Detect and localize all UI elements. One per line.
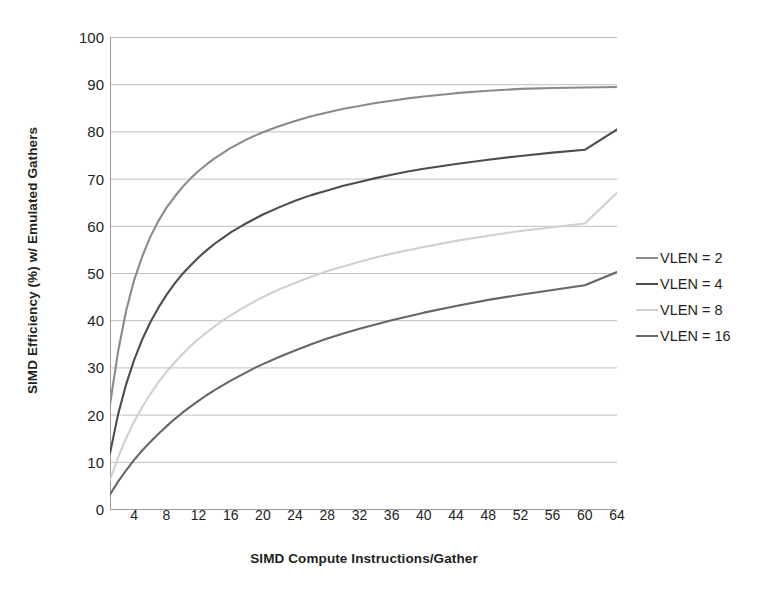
x-tick-label: 8 — [162, 508, 170, 522]
legend-label: VLEN = 8 — [660, 302, 722, 318]
legend-item-0[interactable]: VLEN = 2 — [636, 245, 766, 271]
series-line-3 — [110, 272, 617, 494]
chart-container: SIMD Efficiency (%) w/ Emulated Gathers … — [0, 0, 767, 600]
x-tick-label: 20 — [255, 508, 271, 522]
legend-swatch-icon — [636, 335, 658, 337]
x-tick-label: 16 — [223, 508, 239, 522]
series-line-0 — [110, 87, 617, 404]
x-tick-label: 60 — [577, 508, 593, 522]
plot-area — [110, 37, 617, 509]
x-tick-label: 52 — [513, 508, 529, 522]
chart-legend: VLEN = 2VLEN = 4VLEN = 8VLEN = 16 — [636, 245, 766, 349]
legend-swatch-icon — [636, 257, 658, 259]
y-axis-title-wrap: SIMD Efficiency (%) w/ Emulated Gathers — [16, 0, 50, 520]
x-tick-label: 32 — [352, 508, 368, 522]
y-tick-label: 20 — [58, 407, 104, 422]
x-tick-label: 56 — [545, 508, 561, 522]
x-tick-label: 44 — [448, 508, 464, 522]
x-tick-label: 36 — [384, 508, 400, 522]
y-axis-title: SIMD Efficiency (%) w/ Emulated Gathers — [26, 126, 41, 393]
legend-label: VLEN = 2 — [660, 250, 722, 266]
y-tick-label: 90 — [58, 77, 104, 92]
legend-item-1[interactable]: VLEN = 4 — [636, 271, 766, 297]
y-tick-label: 40 — [58, 313, 104, 328]
y-tick-label: 30 — [58, 360, 104, 375]
y-axis-tick-labels: 0102030405060708090100 — [52, 0, 104, 520]
legend-item-3[interactable]: VLEN = 16 — [636, 323, 766, 349]
x-tick-label: 12 — [191, 508, 207, 522]
x-tick-label: 40 — [416, 508, 432, 522]
y-tick-label: 70 — [58, 171, 104, 186]
legend-item-2[interactable]: VLEN = 8 — [636, 297, 766, 323]
y-tick-label: 50 — [58, 266, 104, 281]
series-line-2 — [110, 193, 617, 480]
y-tick-label: 10 — [58, 454, 104, 469]
x-tick-label: 28 — [319, 508, 335, 522]
chart-svg — [110, 37, 617, 510]
legend-swatch-icon — [636, 309, 658, 311]
x-tick-label: 64 — [609, 508, 625, 522]
y-tick-label: 80 — [58, 124, 104, 139]
y-tick-label: 60 — [58, 218, 104, 233]
legend-swatch-icon — [636, 283, 658, 285]
legend-label: VLEN = 4 — [660, 276, 722, 292]
x-tick-label: 48 — [480, 508, 496, 522]
y-tick-label: 100 — [58, 30, 104, 45]
x-tick-label: 24 — [287, 508, 303, 522]
x-axis-title: SIMD Compute Instructions/Gather — [110, 551, 618, 566]
x-tick-label: 4 — [130, 508, 138, 522]
legend-label: VLEN = 16 — [660, 328, 731, 344]
x-axis-tick-labels: 481216202428323640444852566064 — [0, 508, 767, 532]
